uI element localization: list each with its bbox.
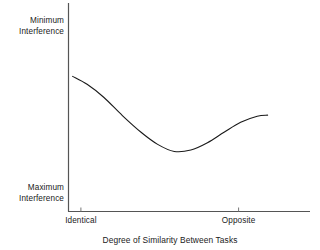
y-axis-label-minimum-line2: Interference (0, 27, 64, 38)
chart-plot-area (0, 0, 320, 250)
y-axis-label-minimum-line1: Minimum (0, 16, 64, 27)
y-axis-label-maximum-line2: Interference (0, 194, 64, 205)
y-axis-label-maximum: Maximum Interference (0, 183, 64, 204)
chart-figure: Minimum Interference Maximum Interferenc… (0, 0, 320, 250)
x-tick-label-identical: Identical (48, 216, 114, 227)
y-axis-label-minimum: Minimum Interference (0, 16, 64, 37)
interference-curve (73, 76, 268, 151)
x-axis-title: Degree of Similarity Between Tasks (49, 235, 291, 246)
x-tick-label-opposite: Opposite (206, 216, 272, 227)
y-axis-label-maximum-line1: Maximum (0, 183, 64, 194)
